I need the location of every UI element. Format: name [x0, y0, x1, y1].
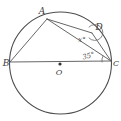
chord-ad-line [47, 19, 92, 33]
point-label-a: A [38, 6, 46, 16]
center-label-o: O [56, 68, 63, 77]
circle-diagram-canvas: A B C D O x° 35° [0, 0, 121, 121]
diameter-bc-line [10, 61, 111, 62]
geometry-figure: A B C D O x° 35° [0, 0, 121, 121]
angle-value-x: x° [78, 36, 85, 44]
center-point-dot [58, 62, 61, 65]
point-label-c: C [113, 59, 119, 68]
point-label-b: B [2, 58, 10, 68]
chord-ba-line [10, 19, 47, 62]
point-label-d: D [94, 22, 102, 32]
angle-value-35: 35° [82, 51, 96, 62]
